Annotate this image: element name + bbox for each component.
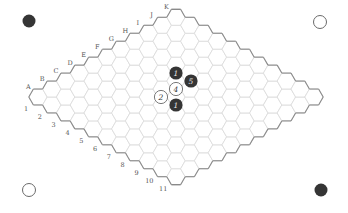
corner-marker-top-right-white-icon [314,16,327,29]
column-label-C: C [54,67,59,75]
row-label-1: 1 [24,105,28,113]
column-label-E: E [81,51,86,59]
row-label-5: 5 [79,137,83,145]
hex-cells[interactable] [29,9,323,184]
column-label-I: I [136,19,139,27]
stone-white-2: 2 [154,90,167,103]
corner-marker-top-left-black-icon [23,15,36,28]
column-label-D: D [67,59,72,67]
column-label-B: B [40,75,45,83]
row-label-9: 9 [134,169,138,177]
column-label-A: A [25,83,31,91]
row-label-2: 2 [38,113,42,121]
row-label-4: 4 [65,129,69,137]
stone-black-5: 5 [184,74,197,87]
column-label-F: F [95,43,100,51]
row-label-6: 6 [93,145,97,153]
stone-black-1: 1 [169,98,182,111]
stone-white-4: 4 [169,82,182,95]
column-label-G: G [109,35,114,43]
column-label-J: J [149,11,153,19]
column-label-H: H [123,27,129,35]
row-label-8: 8 [121,161,125,169]
row-label-10: 10 [145,177,153,185]
stone-move-number: 5 [189,77,194,86]
corner-marker-bottom-right-black-icon [315,184,328,197]
row-label-7: 7 [107,153,111,161]
stone-black-1: 1 [169,66,182,79]
stone-move-number: 4 [173,85,179,94]
hex-board[interactable]: ABCDEFGHIJK 1234567891011 15421 [0,0,348,213]
row-label-11: 11 [159,185,167,193]
corner-marker-bottom-left-white-icon [23,184,36,197]
stone-move-number: 2 [158,93,164,102]
row-label-3: 3 [52,121,56,129]
column-label-K: K [164,3,169,11]
stone-move-number: 1 [174,101,179,110]
stone-move-number: 1 [174,69,179,78]
